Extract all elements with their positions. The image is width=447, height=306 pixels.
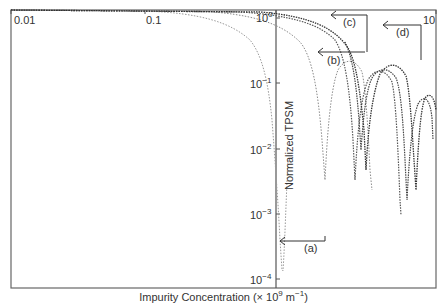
x-label-text: Impurity Concentration (× 10 [139, 291, 278, 303]
series-b-curve [11, 10, 372, 190]
y-tick-base: 10 [250, 78, 262, 90]
annotation-c: (c) [343, 16, 356, 28]
y-tick-label-1e0: 100 [256, 10, 273, 24]
y-tick-exp: 0 [268, 10, 272, 19]
plot-frame [11, 10, 436, 288]
x-label-unit: m [283, 291, 295, 303]
x-axis-label: Impurity Concentration (× 109 m−1) [0, 289, 447, 303]
y-tick-label-1e-4: 10−4 [250, 272, 271, 286]
x-tick-label-10: 10 [423, 14, 435, 26]
x-label-unit-exp: −1 [295, 289, 304, 298]
y-tick-exp: −3 [262, 207, 271, 216]
y-tick-label-1e-2: 10−2 [250, 142, 271, 156]
y-tick-exp: −4 [262, 272, 271, 281]
y-tick-base: 10 [256, 12, 268, 24]
y-tick-label-1e-3: 10−3 [250, 207, 271, 221]
y-tick-base: 10 [250, 144, 262, 156]
y-tick-exp: −1 [262, 76, 271, 85]
x-label-close: ) [304, 291, 308, 303]
x-tick-label-0.1: 0.1 [146, 14, 161, 26]
annotation-d: (d) [396, 26, 409, 38]
y-tick-base: 10 [250, 209, 262, 221]
x-tick-label-0.01: 0.01 [14, 14, 35, 26]
chart-canvas [0, 0, 447, 306]
series-d-curve [11, 10, 436, 190]
y-tick-base: 10 [250, 274, 262, 286]
series-a-curve [11, 10, 288, 271]
y-axis-label: Normalized TPSM [283, 101, 295, 190]
annotation-b: (b) [327, 54, 340, 66]
y-tick-label-1e-1: 10−1 [250, 76, 271, 90]
y-tick-exp: −2 [262, 142, 271, 151]
annotation-arrows [280, 11, 421, 245]
annotation-a: (a) [304, 242, 317, 254]
